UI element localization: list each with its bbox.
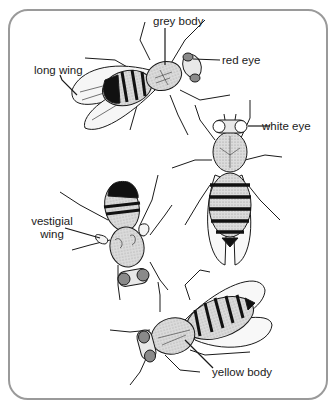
label-white-eye: white eye bbox=[262, 120, 311, 133]
fly-top-long-wing bbox=[72, 20, 230, 135]
label-vestigial-wing: vestigial wing bbox=[31, 215, 73, 240]
fly-left-vestigial-wing bbox=[60, 175, 172, 300]
fly-illustrations bbox=[0, 0, 335, 409]
label-vestigial-wing-line2: wing bbox=[31, 228, 73, 241]
label-yellow-body: yellow body bbox=[212, 366, 272, 379]
label-red-eye: red eye bbox=[222, 54, 260, 67]
label-long-wing: long wing bbox=[34, 64, 83, 77]
label-vestigial-wing-line1: vestigial bbox=[31, 215, 73, 228]
label-grey-body: grey body bbox=[153, 15, 204, 28]
